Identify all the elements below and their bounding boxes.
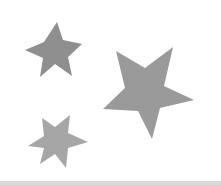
star-canvas — [0, 0, 221, 185]
six-pointed-star-icon-top — [25, 22, 82, 77]
six-pointed-star-icon-bottom — [28, 115, 88, 168]
five-pointed-star-icon-large — [103, 47, 194, 139]
bottom-divider — [0, 181, 221, 185]
